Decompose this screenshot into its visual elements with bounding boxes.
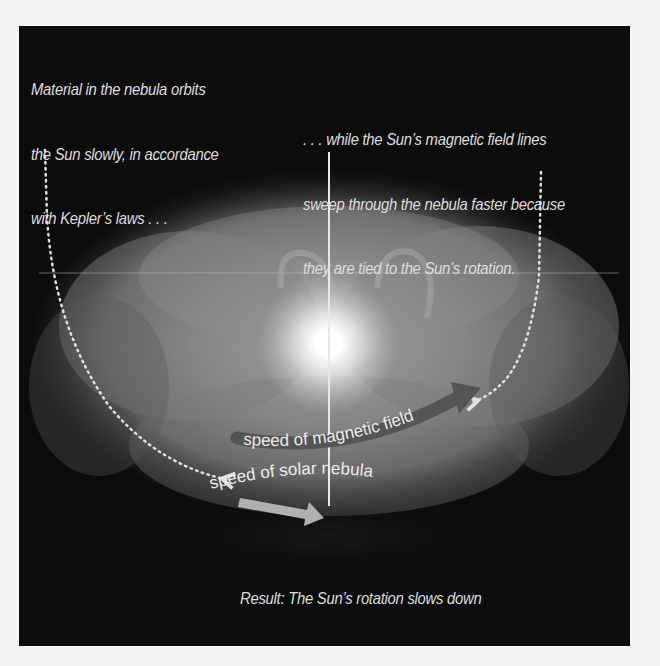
caption-line: Material in the nebula orbits: [31, 79, 219, 101]
caption-line: with Kepler’s laws . . .: [31, 208, 219, 230]
caption-line: Result: The Sun’s rotation slows down: [240, 588, 516, 610]
caption-line: sweep through the nebula faster because: [303, 194, 565, 216]
caption-kepler: Material in the nebula orbits the Sun sl…: [31, 36, 219, 273]
diagram-panel: speed of magnetic field speed of solar n…: [19, 26, 630, 646]
caption-line: . . . while the Sun’s magnetic field lin…: [303, 129, 565, 151]
caption-magnetic-field: . . . while the Sun’s magnetic field lin…: [303, 86, 565, 323]
caption-line: they are tied to the Sun’s rotation.: [303, 258, 565, 280]
caption-result: Result: The Sun’s rotation slows down be…: [240, 545, 516, 646]
caption-line: the Sun slowly, in accordance: [31, 144, 219, 166]
